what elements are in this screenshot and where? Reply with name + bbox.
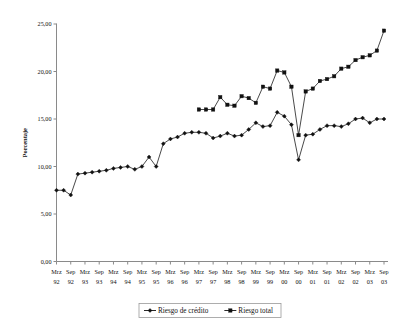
x-tick-month-label: Sep [123,268,132,275]
data-point-marker [268,124,272,128]
data-point-marker [268,87,271,90]
data-point-marker [304,90,307,93]
x-tick-month-label: Sep [294,268,303,275]
data-point-marker [55,188,59,192]
data-point-marker [218,134,222,138]
x-tick-year-label: 96 [182,278,188,285]
y-axis-title: Porcentaje [21,128,28,157]
x-tick-month-label: Mrz [308,268,319,275]
legend-marker-2 [229,309,232,312]
data-point-marker [283,71,286,74]
x-tick-month-label: Mrz [194,268,205,275]
data-point-marker [204,108,207,111]
legend-label-2[interactable]: Riesgo total [238,307,273,315]
chart-container: 0,005,0010,0015,0020,0025,00 Porcentaje … [0,0,407,333]
data-point-marker [226,103,229,106]
data-point-marker [354,58,357,61]
x-tick-year-label: 93 [96,278,102,285]
x-tick-year-label: 92 [68,278,74,285]
data-point-marker [225,131,229,135]
data-point-marker [297,158,301,162]
x-tick-year-label: 97 [210,278,216,285]
data-point-marker [261,85,264,88]
x-tick-year-label: 96 [167,278,173,285]
data-point-marker [339,125,343,129]
x-tick-year-label: 94 [110,278,116,285]
x-tick-year-label: 92 [53,278,59,285]
x-tick-month-label: Sep [237,268,246,275]
x-tick-year-label: 95 [153,278,159,285]
data-point-marker [233,104,236,107]
data-point-marker [297,133,300,136]
data-point-marker [276,69,279,72]
data-point-marker [126,165,130,169]
y-tick-label: 5,00 [41,210,52,217]
x-tick-year-label: 98 [239,278,245,285]
x-tick-year-label: 00 [281,278,287,285]
data-point-marker [368,54,371,57]
y-tick-label: 15,00 [38,115,52,122]
chart-axes [57,24,389,262]
data-point-marker [261,125,265,129]
x-tick-year-label: 93 [82,278,88,285]
x-tick-month-label: Mrz [336,268,347,275]
data-point-marker [83,171,87,175]
x-tick-year-label: 97 [196,278,202,285]
x-tick-year-label: 99 [253,278,259,285]
data-point-marker [90,170,94,174]
chart-legend: Riesgo de créditoRiesgo total [139,304,281,318]
x-tick-month-label: Mrz [137,268,148,275]
data-point-marker [361,56,364,59]
x-tick-month-label: Sep [95,268,104,275]
x-tick-month-label: Sep [152,268,161,275]
data-point-marker [382,29,385,32]
data-point-marker [318,79,321,82]
x-tick-year-label: 02 [338,278,344,285]
data-point-marker [176,135,180,139]
data-point-marker [247,96,250,99]
data-point-marker [375,117,379,121]
x-tick-month-label: Mrz [222,268,233,275]
x-tick-year-label: 03 [381,278,387,285]
data-point-marker [211,108,214,111]
data-point-marker [311,87,314,90]
x-tick-year-label: 02 [352,278,358,285]
data-point-marker [254,101,257,104]
x-tick-year-label: 98 [224,278,230,285]
x-tick-month-label: Mrz [80,268,91,275]
x-tick-month-label: Sep [208,268,217,275]
data-point-marker [240,95,243,98]
x-tick-year-label: 01 [324,278,330,285]
data-point-marker [275,110,279,114]
x-tick-year-label: 01 [310,278,316,285]
x-tick-month-label: Mrz [51,268,62,275]
data-point-marker [304,133,308,137]
data-point-marker [325,124,329,128]
data-point-marker [219,95,222,98]
data-point-marker [382,117,386,121]
x-axis-tick-labels: Mrz92Sep92Mrz93Sep93Mrz94Sep94Mrz95Sep95… [51,268,388,285]
data-point-marker [183,131,187,135]
data-point-marker [332,75,335,78]
data-point-marker [332,124,336,128]
x-tick-month-label: Mrz [365,268,376,275]
y-axis-tick-labels: 0,005,0010,0015,0020,0025,00 [38,20,52,265]
y-tick-label: 10,00 [38,163,52,170]
x-tick-year-label: 99 [267,278,273,285]
legend-label-1[interactable]: Riesgo de crédito [158,307,209,315]
y-tick-label: 0,00 [41,258,52,265]
x-tick-month-label: Sep [265,268,274,275]
data-point-marker [290,85,293,88]
data-point-marker [104,168,108,172]
data-point-marker [97,169,101,173]
x-tick-year-label: 95 [139,278,145,285]
data-point-marker [190,130,194,134]
x-tick-month-label: Sep [322,268,331,275]
data-point-marker [347,65,350,68]
x-tick-month-label: Mrz [165,268,176,275]
data-point-marker [133,167,137,171]
data-point-marker [197,108,200,111]
x-tick-month-label: Sep [379,268,388,275]
x-tick-month-label: Sep [351,268,360,275]
data-point-marker [119,165,123,169]
